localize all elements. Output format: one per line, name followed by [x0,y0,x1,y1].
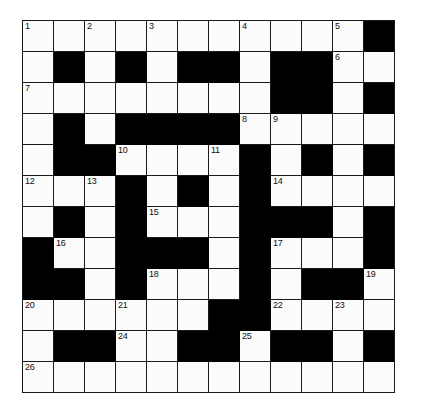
crossword-cell[interactable]: 23 [333,300,364,331]
crossword-cell[interactable]: 10 [116,145,147,176]
crossword-cell[interactable] [85,269,116,300]
crossword-cell[interactable] [302,238,333,269]
crossword-cell[interactable] [147,300,178,331]
crossword-cell[interactable]: 25 [240,331,271,362]
crossword-cell[interactable] [302,176,333,207]
crossword-cell[interactable] [271,21,302,52]
crossword-cell[interactable] [178,207,209,238]
crossword-cell[interactable] [85,362,116,393]
crossword-cell[interactable] [240,52,271,83]
crossword-cell[interactable] [302,362,333,393]
crossword-cell[interactable] [23,114,54,145]
crossword-cell[interactable] [333,207,364,238]
crossword-cell[interactable] [178,83,209,114]
crossword-cell[interactable] [23,52,54,83]
crossword-cell[interactable]: 1 [23,21,54,52]
crossword-cell[interactable] [302,300,333,331]
crossword-cell[interactable] [23,145,54,176]
crossword-cell[interactable]: 13 [85,176,116,207]
crossword-cell[interactable] [209,21,240,52]
crossword-cell[interactable] [54,176,85,207]
crossword-cell[interactable] [23,331,54,362]
crossword-cell[interactable] [54,362,85,393]
crossword-cell[interactable] [116,362,147,393]
crossword-cell[interactable] [147,145,178,176]
crossword-block-cell [178,52,209,83]
crossword-cell[interactable] [333,331,364,362]
crossword-cell[interactable] [147,176,178,207]
crossword-cell[interactable] [209,238,240,269]
crossword-cell[interactable] [116,83,147,114]
crossword-cell[interactable] [271,145,302,176]
crossword-cell[interactable] [333,114,364,145]
crossword-cell[interactable]: 3 [147,21,178,52]
crossword-cell[interactable] [240,362,271,393]
crossword-cell[interactable]: 9 [271,114,302,145]
crossword-cell[interactable] [85,238,116,269]
crossword-cell[interactable]: 4 [240,21,271,52]
crossword-cell[interactable] [85,83,116,114]
crossword-cell[interactable]: 18 [147,269,178,300]
crossword-cell[interactable] [209,362,240,393]
crossword-cell[interactable]: 14 [271,176,302,207]
crossword-cell[interactable] [54,21,85,52]
crossword-cell[interactable]: 7 [23,83,54,114]
crossword-cell[interactable] [178,21,209,52]
crossword-cell[interactable] [364,52,395,83]
crossword-cell[interactable] [364,362,395,393]
crossword-cell[interactable]: 5 [333,21,364,52]
crossword-cell[interactable] [333,362,364,393]
crossword-cell[interactable] [364,300,395,331]
crossword-cell[interactable]: 15 [147,207,178,238]
crossword-cell[interactable] [54,300,85,331]
crossword-cell[interactable] [364,176,395,207]
crossword-cell[interactable] [85,300,116,331]
crossword-cell[interactable]: 16 [54,238,85,269]
crossword-cell[interactable] [302,114,333,145]
crossword-row: 15 [23,207,395,238]
crossword-cell[interactable] [209,83,240,114]
crossword-cell[interactable] [116,21,147,52]
crossword-cell[interactable] [240,83,271,114]
clue-number-13: 13 [87,176,96,187]
crossword-cell[interactable] [333,238,364,269]
crossword-block-cell [302,331,333,362]
crossword-cell[interactable] [333,176,364,207]
crossword-cell[interactable] [364,114,395,145]
crossword-cell[interactable]: 11 [209,145,240,176]
crossword-cell[interactable]: 22 [271,300,302,331]
crossword-cell[interactable] [333,83,364,114]
crossword-cell[interactable] [54,83,85,114]
clue-number-19: 19 [366,269,375,280]
crossword-cell[interactable] [85,52,116,83]
crossword-cell[interactable] [85,207,116,238]
crossword-cell[interactable] [302,21,333,52]
crossword-cell[interactable] [178,362,209,393]
crossword-cell[interactable] [178,145,209,176]
crossword-grid[interactable]: 1234567891011121314151617181920212223242… [22,20,395,393]
crossword-cell[interactable] [209,269,240,300]
crossword-cell[interactable] [23,207,54,238]
crossword-cell[interactable] [147,362,178,393]
crossword-cell[interactable]: 26 [23,362,54,393]
crossword-cell[interactable]: 20 [23,300,54,331]
crossword-cell[interactable] [147,331,178,362]
crossword-cell[interactable]: 19 [364,269,395,300]
crossword-cell[interactable] [85,114,116,145]
crossword-cell[interactable] [333,145,364,176]
crossword-cell[interactable] [178,300,209,331]
crossword-cell[interactable] [147,83,178,114]
crossword-cell[interactable] [271,269,302,300]
crossword-cell[interactable] [209,176,240,207]
crossword-cell[interactable] [147,52,178,83]
crossword-cell[interactable]: 17 [271,238,302,269]
crossword-cell[interactable]: 21 [116,300,147,331]
crossword-cell[interactable]: 24 [116,331,147,362]
crossword-cell[interactable]: 8 [240,114,271,145]
crossword-cell[interactable] [209,207,240,238]
crossword-cell[interactable]: 2 [85,21,116,52]
crossword-cell[interactable] [271,362,302,393]
crossword-cell[interactable]: 6 [333,52,364,83]
crossword-cell[interactable]: 12 [23,176,54,207]
crossword-cell[interactable] [178,269,209,300]
